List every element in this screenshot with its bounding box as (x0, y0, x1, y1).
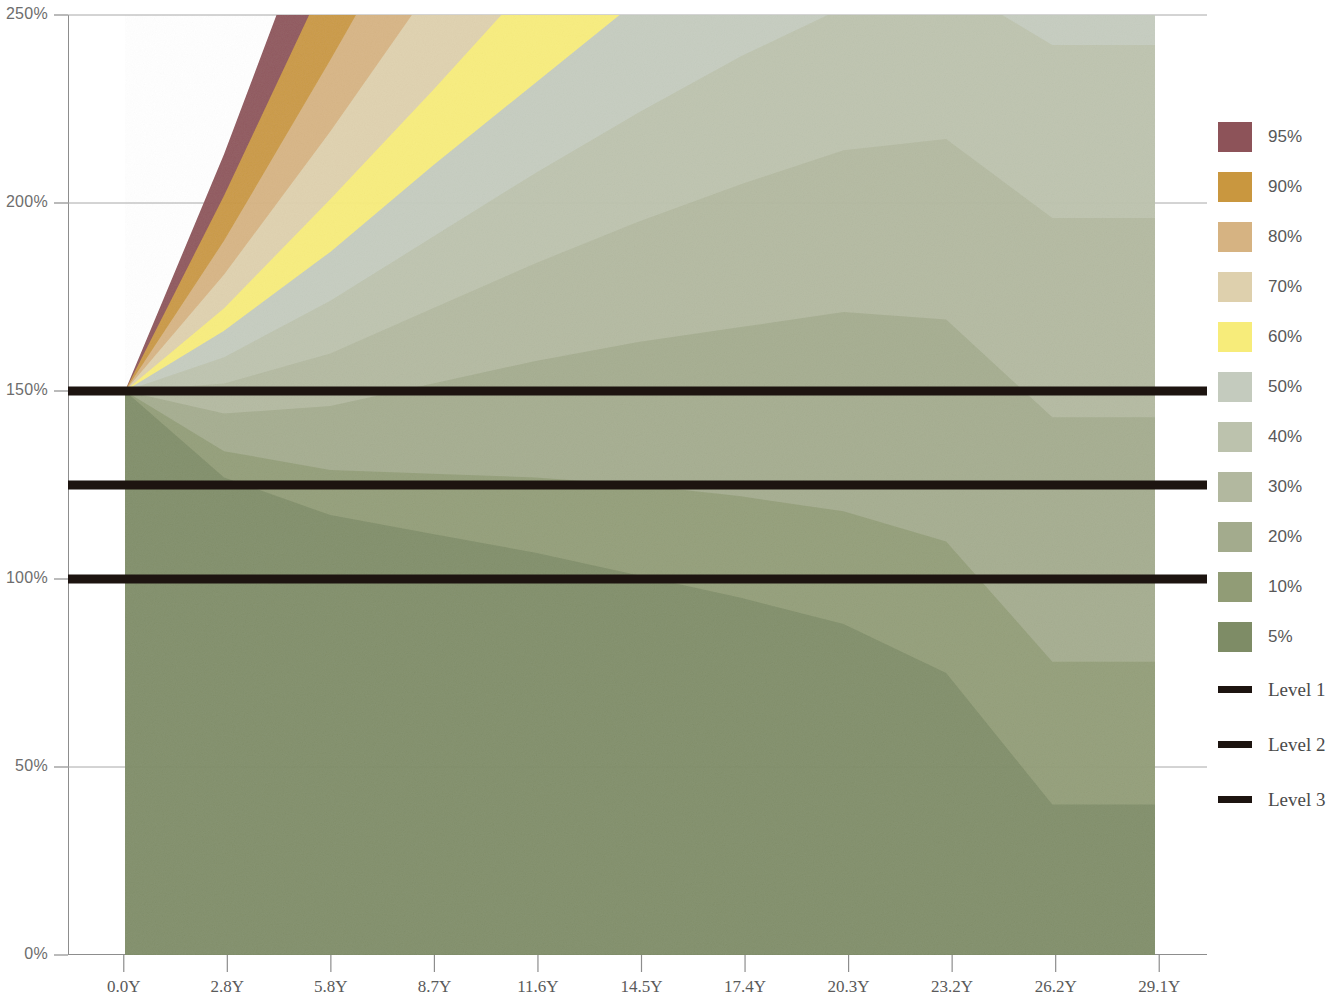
legend-swatch-icon (1218, 172, 1252, 202)
legend-band-group: 95%90%80%70%60%50%40%30%20%10%5% (1218, 112, 1338, 662)
legend-item-80pct[interactable]: 80% (1218, 212, 1338, 262)
x-tick-label: 11.6Y (517, 977, 558, 997)
legend-item-95pct[interactable]: 95% (1218, 112, 1338, 162)
plot-area (68, 15, 1207, 955)
legend-label: 60% (1268, 327, 1302, 347)
legend-item-40pct[interactable]: 40% (1218, 412, 1338, 462)
legend-swatch-icon (1218, 622, 1252, 652)
legend-label: 20% (1268, 527, 1302, 547)
legend-swatch-icon (1218, 422, 1252, 452)
x-tick-label: 14.5Y (620, 977, 662, 997)
legend-label: 50% (1268, 377, 1302, 397)
legend-swatch-icon (1218, 372, 1252, 402)
legend-item-30pct[interactable]: 30% (1218, 462, 1338, 512)
x-tick-label: 8.7Y (418, 977, 452, 997)
legend-line-icon (1218, 741, 1252, 748)
y-tick-label: 150% (0, 381, 48, 399)
x-tick-label: 5.8Y (314, 977, 348, 997)
legend-swatch-icon (1218, 572, 1252, 602)
legend-item-70pct[interactable]: 70% (1218, 262, 1338, 312)
legend-swatch-icon (1218, 222, 1252, 252)
legend-item-5pct[interactable]: 5% (1218, 612, 1338, 662)
x-tick-label: 2.8Y (211, 977, 245, 997)
legend-level-group: Level 1Level 2Level 3 (1218, 662, 1338, 827)
x-tick-label: 26.2Y (1035, 977, 1077, 997)
y-tick-label: 50% (0, 757, 48, 775)
legend-swatch-icon (1218, 122, 1252, 152)
legend-label: Level 1 (1268, 679, 1326, 701)
x-tick-label: 17.4Y (724, 977, 766, 997)
y-tick-label: 100% (0, 569, 48, 587)
legend-label: 70% (1268, 277, 1302, 297)
legend-line-icon (1218, 796, 1252, 803)
legend-swatch-icon (1218, 272, 1252, 302)
legend-swatch-icon (1218, 472, 1252, 502)
legend-label: 5% (1268, 627, 1293, 647)
y-tick-label: 200% (0, 193, 48, 211)
legend-label: 30% (1268, 477, 1302, 497)
legend-line-icon (1218, 686, 1252, 693)
y-tick-label: 250% (0, 5, 48, 23)
legend-label: 40% (1268, 427, 1302, 447)
legend-label: 10% (1268, 577, 1302, 597)
legend: 95%90%80%70%60%50%40%30%20%10%5% Level 1… (1218, 112, 1338, 827)
legend-item-level-2[interactable]: Level 2 (1218, 717, 1338, 772)
x-tick-label: 29.1Y (1138, 977, 1180, 997)
legend-label: 80% (1268, 227, 1302, 247)
legend-label: 95% (1268, 127, 1302, 147)
legend-swatch-icon (1218, 522, 1252, 552)
x-tick-label: 20.3Y (828, 977, 870, 997)
x-tick-marks (124, 955, 1159, 972)
legend-item-level-3[interactable]: Level 3 (1218, 772, 1338, 827)
legend-item-90pct[interactable]: 90% (1218, 162, 1338, 212)
legend-label: Level 3 (1268, 789, 1326, 811)
fan-chart-page: 250%200%150%100%50%0% 0.0Y2.8Y5.8Y8.7Y11… (0, 0, 1342, 998)
legend-item-10pct[interactable]: 10% (1218, 562, 1338, 612)
legend-item-20pct[interactable]: 20% (1218, 512, 1338, 562)
legend-item-level-1[interactable]: Level 1 (1218, 662, 1338, 717)
x-tick-label: 23.2Y (931, 977, 973, 997)
y-tick-label: 0% (0, 945, 48, 963)
legend-label: Level 2 (1268, 734, 1326, 756)
legend-swatch-icon (1218, 322, 1252, 352)
x-tick-label: 0.0Y (107, 977, 141, 997)
legend-label: 90% (1268, 177, 1302, 197)
legend-item-60pct[interactable]: 60% (1218, 312, 1338, 362)
legend-item-50pct[interactable]: 50% (1218, 362, 1338, 412)
